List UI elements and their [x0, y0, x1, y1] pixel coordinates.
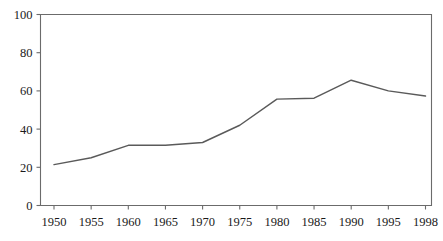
x-axis-tick-label: 1960 [116, 215, 141, 229]
x-axis-tick-label: 1980 [264, 215, 289, 229]
y-axis-tick-label: 100 [14, 8, 33, 22]
chart-container: 020406080100 195019551960196519701975198… [0, 0, 443, 241]
y-axis-tick-label: 20 [20, 161, 33, 175]
x-axis-tick-label: 1985 [302, 215, 327, 229]
x-axis-tick-labels: 1950195519601965197019751980198519901995… [42, 215, 439, 229]
y-axis-tick-label: 40 [20, 123, 33, 137]
x-axis-tick-label: 1995 [376, 215, 401, 229]
x-axis-tick-label: 1950 [42, 215, 67, 229]
x-axis-tick-label: 1955 [79, 215, 104, 229]
line-chart: 020406080100 195019551960196519701975198… [0, 0, 443, 241]
x-axis-tick-label: 1990 [339, 215, 364, 229]
x-axis-tick-label: 1970 [190, 215, 215, 229]
y-axis-tick-label: 60 [20, 84, 33, 98]
y-axis-tick-label: 0 [26, 199, 32, 213]
x-axis-tick-label: 1975 [227, 215, 252, 229]
x-axis-tick-label: 1998 [413, 215, 438, 229]
chart-background [0, 0, 443, 241]
x-axis-tick-label: 1965 [153, 215, 178, 229]
y-axis-tick-label: 80 [20, 46, 33, 60]
